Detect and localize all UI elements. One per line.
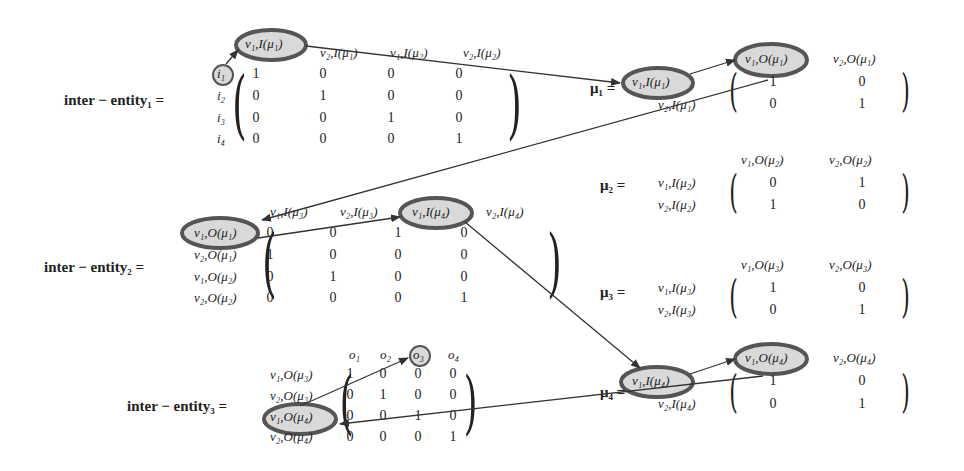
arrow-ie3-row-to-o3 (300, 358, 408, 406)
arrow-mu1-in-to-out (690, 60, 735, 74)
arrow-i1-to-v1I-mu1 (226, 50, 238, 64)
arrow-ie2-row-to-col (258, 217, 400, 238)
arrow-ie1-to-mu1-in (306, 46, 620, 83)
arrow-mu4-in-to-out (690, 359, 735, 374)
arrow-ie2-to-mu4-in (465, 222, 640, 368)
arrow-layer (0, 0, 964, 471)
arrow-mu4-out-to-ie3 (340, 376, 763, 424)
arrow-mu1-out-to-ie2 (262, 80, 768, 220)
